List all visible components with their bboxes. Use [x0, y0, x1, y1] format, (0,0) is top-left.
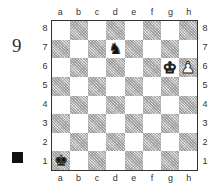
- square-e5: [125, 77, 143, 96]
- square-b2: [70, 133, 88, 152]
- file-label-e: e: [125, 174, 143, 183]
- square-b4: [70, 96, 88, 115]
- square-a1: ♚: [52, 151, 70, 170]
- file-label-e: e: [125, 8, 143, 17]
- file-label-d: d: [106, 174, 124, 183]
- square-d4: [106, 96, 124, 115]
- rank-label-1: 1: [41, 157, 49, 166]
- square-d6: [106, 58, 124, 77]
- square-g5: [161, 77, 179, 96]
- file-label-c: c: [88, 174, 106, 183]
- square-c3: [88, 114, 106, 133]
- square-f6: [143, 58, 161, 77]
- square-d1: [106, 151, 124, 170]
- square-c6: [88, 58, 106, 77]
- square-f4: [143, 96, 161, 115]
- square-b1: [70, 151, 88, 170]
- square-e2: [125, 133, 143, 152]
- chess-board: ♞♚♟♚: [51, 20, 198, 171]
- square-b8: [70, 21, 88, 40]
- square-c5: [88, 77, 106, 96]
- file-label-f: f: [143, 8, 161, 17]
- file-label-d: d: [106, 8, 124, 17]
- square-f2: [143, 133, 161, 152]
- square-g4: [161, 96, 179, 115]
- square-h7: [179, 40, 197, 59]
- square-g7: [161, 40, 179, 59]
- file-label-g: g: [161, 174, 179, 183]
- square-a7: [52, 40, 70, 59]
- square-h8: [179, 21, 197, 40]
- file-label-h: h: [180, 8, 198, 17]
- square-f3: [143, 114, 161, 133]
- file-label-a: a: [51, 174, 69, 183]
- rank-label-2: 2: [41, 138, 49, 147]
- file-label-h: h: [180, 174, 198, 183]
- square-a2: [52, 133, 70, 152]
- square-e8: [125, 21, 143, 40]
- side-to-move-marker: [12, 152, 23, 163]
- file-label-g: g: [161, 8, 179, 17]
- diagram-number: 9: [12, 36, 22, 55]
- square-a6: [52, 58, 70, 77]
- file-label-c: c: [88, 8, 106, 17]
- square-c8: [88, 21, 106, 40]
- square-f1: [143, 151, 161, 170]
- rank-label-3: 3: [41, 119, 49, 128]
- square-b5: [70, 77, 88, 96]
- square-b3: [70, 114, 88, 133]
- square-a3: [52, 114, 70, 133]
- file-label-a: a: [51, 8, 69, 17]
- rank-label-1: 1: [201, 157, 209, 166]
- rank-label-6: 6: [201, 62, 209, 71]
- square-c1: [88, 151, 106, 170]
- rank-label-4: 4: [41, 100, 49, 109]
- square-g8: [161, 21, 179, 40]
- rank-label-8: 8: [41, 24, 49, 33]
- square-c7: [88, 40, 106, 59]
- file-label-f: f: [143, 174, 161, 183]
- square-f7: [143, 40, 161, 59]
- square-a5: [52, 77, 70, 96]
- square-d5: [106, 77, 124, 96]
- square-h1: [179, 151, 197, 170]
- square-a8: [52, 21, 70, 40]
- rank-label-5: 5: [201, 81, 209, 90]
- square-g2: [161, 133, 179, 152]
- square-e3: [125, 114, 143, 133]
- square-c2: [88, 133, 106, 152]
- rank-label-6: 6: [41, 62, 49, 71]
- square-e1: [125, 151, 143, 170]
- square-g3: [161, 114, 179, 133]
- rank-label-7: 7: [201, 43, 209, 52]
- square-h2: [179, 133, 197, 152]
- square-e4: [125, 96, 143, 115]
- square-h3: [179, 114, 197, 133]
- square-d8: [106, 21, 124, 40]
- square-h4: [179, 96, 197, 115]
- square-f5: [143, 77, 161, 96]
- square-g1: [161, 151, 179, 170]
- black-king-icon: ♚: [54, 153, 68, 169]
- rank-label-8: 8: [201, 24, 209, 33]
- black-knight-icon: ♞: [108, 41, 122, 57]
- square-d3: [106, 114, 124, 133]
- white-pawn-icon: ♟: [181, 60, 195, 76]
- square-b6: [70, 58, 88, 77]
- white-king-icon: ♚: [163, 60, 177, 76]
- file-label-b: b: [69, 174, 87, 183]
- square-b7: [70, 40, 88, 59]
- square-d2: [106, 133, 124, 152]
- rank-label-4: 4: [201, 100, 209, 109]
- file-label-b: b: [69, 8, 87, 17]
- rank-label-2: 2: [201, 138, 209, 147]
- square-g6: ♚: [161, 58, 179, 77]
- square-a4: [52, 96, 70, 115]
- rank-label-5: 5: [41, 81, 49, 90]
- square-e7: [125, 40, 143, 59]
- rank-label-3: 3: [201, 119, 209, 128]
- square-h6: ♟: [179, 58, 197, 77]
- square-d7: ♞: [106, 40, 124, 59]
- square-f8: [143, 21, 161, 40]
- square-h5: [179, 77, 197, 96]
